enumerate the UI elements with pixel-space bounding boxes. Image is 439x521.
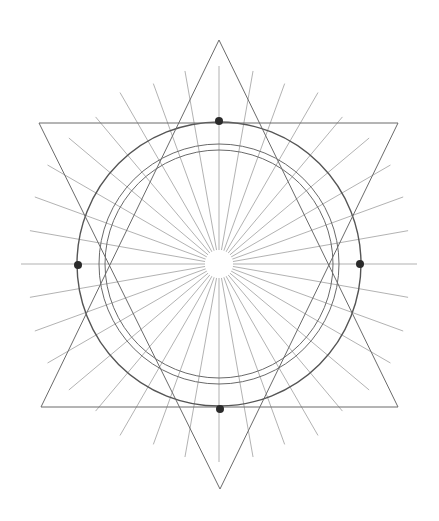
ray-line bbox=[30, 231, 205, 262]
ray-line bbox=[228, 275, 342, 411]
ray-line bbox=[48, 165, 207, 257]
ray-line bbox=[120, 276, 212, 435]
ray-line bbox=[221, 71, 253, 250]
geometric-drawing bbox=[0, 0, 439, 521]
ray-line bbox=[231, 165, 390, 257]
dot-left bbox=[74, 261, 82, 269]
downward-triangle bbox=[39, 123, 398, 489]
ray-line bbox=[185, 71, 217, 250]
ray-line bbox=[231, 271, 390, 363]
dot-bottom bbox=[216, 405, 224, 413]
ray-line bbox=[96, 117, 210, 253]
hexagram-svg bbox=[0, 0, 439, 521]
ray-line bbox=[233, 231, 408, 262]
ray-line bbox=[120, 93, 212, 252]
ray-line bbox=[69, 138, 208, 255]
ray-line bbox=[48, 271, 207, 363]
ray-line bbox=[224, 84, 285, 251]
center-hole bbox=[205, 250, 233, 278]
ray-line bbox=[153, 277, 214, 444]
ray-line bbox=[96, 275, 210, 411]
ray-line bbox=[185, 278, 217, 457]
ray-line bbox=[226, 93, 318, 252]
ray-line bbox=[230, 138, 369, 255]
dot-top bbox=[215, 117, 223, 125]
ray-line bbox=[228, 117, 342, 253]
ray-line bbox=[226, 276, 318, 435]
dot-right bbox=[356, 260, 364, 268]
ray-line bbox=[69, 273, 208, 390]
ray-line bbox=[153, 84, 214, 251]
ray-line bbox=[230, 273, 369, 390]
upward-triangle bbox=[41, 40, 398, 407]
